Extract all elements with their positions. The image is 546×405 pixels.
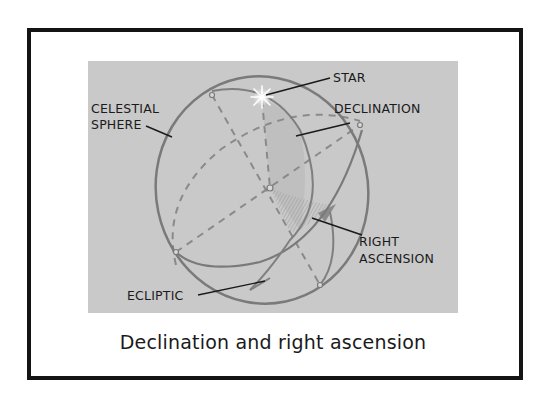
figure-caption: Declination and right ascension (0, 331, 546, 353)
label-celestial-line1: CELESTIAL (91, 101, 159, 116)
label-right-ascension-line1: RIGHT (359, 234, 399, 249)
star-icon (251, 86, 273, 108)
label-celestial-line2: SPHERE (91, 117, 142, 132)
label-star: STAR (333, 70, 366, 85)
label-declination: DECLINATION (334, 101, 421, 116)
label-right-ascension-line2: ASCENSION (359, 251, 434, 266)
label-ecliptic: ECLIPTIC (127, 288, 184, 303)
